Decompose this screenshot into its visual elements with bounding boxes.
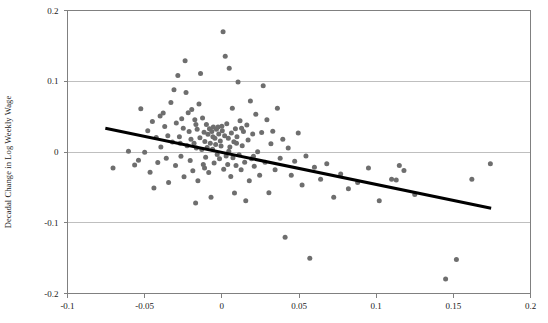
scatter-point bbox=[248, 99, 253, 104]
y-tick-label: 0 bbox=[54, 147, 59, 157]
scatter-point bbox=[227, 66, 232, 71]
scatter-point bbox=[307, 256, 312, 261]
scatter-point bbox=[209, 195, 214, 200]
scatter-point bbox=[168, 100, 173, 105]
scatter-point bbox=[196, 101, 201, 106]
plot-canvas: 0.20.10-0.1-0.2 -0.1-0.0500.050.10.150.2 bbox=[0, 0, 548, 323]
scatter-point bbox=[228, 174, 233, 179]
scatter-point bbox=[210, 134, 215, 139]
scatter-point bbox=[286, 146, 291, 151]
scatter-point bbox=[229, 130, 234, 135]
scatter-point bbox=[132, 163, 137, 168]
scatter-point bbox=[150, 119, 155, 124]
scatter-point bbox=[346, 186, 351, 191]
scatter-point bbox=[203, 155, 208, 160]
scatter-point bbox=[219, 143, 224, 148]
scatter-point bbox=[236, 79, 241, 84]
scatter-point bbox=[202, 165, 207, 170]
scatter-point bbox=[166, 180, 171, 185]
scatter-point bbox=[283, 235, 288, 240]
scatter-point bbox=[273, 167, 278, 172]
scatter-point bbox=[331, 195, 336, 200]
scatter-point bbox=[312, 165, 317, 170]
scatter-point bbox=[184, 90, 189, 95]
scatter-point bbox=[268, 141, 273, 146]
scatter-point bbox=[179, 116, 184, 121]
scatter-point bbox=[239, 167, 244, 172]
scatter-point bbox=[182, 174, 187, 179]
scatter-point bbox=[145, 128, 150, 133]
scatter-point bbox=[296, 130, 301, 135]
scatter-point bbox=[173, 163, 178, 168]
scatter-point bbox=[195, 127, 200, 132]
scatter-point bbox=[181, 126, 186, 131]
scatter-point bbox=[217, 156, 222, 161]
scatter-point bbox=[227, 145, 232, 150]
x-tick-label: -0.1 bbox=[60, 301, 74, 311]
scatter-point bbox=[250, 131, 255, 136]
scatter-point bbox=[193, 200, 198, 205]
x-tick-labels-group: -0.1-0.0500.050.10.150.2 bbox=[60, 301, 536, 311]
scatter-point bbox=[488, 161, 493, 166]
x-tick-label: 0 bbox=[220, 301, 225, 311]
scatter-point bbox=[200, 116, 205, 121]
scatter-point bbox=[300, 182, 305, 187]
scatter-point bbox=[212, 160, 217, 165]
scatter-point bbox=[257, 173, 262, 178]
scatter-point bbox=[292, 159, 297, 164]
scatter-point bbox=[318, 177, 323, 182]
scatter-point bbox=[264, 117, 269, 122]
y-tick-label: 0.1 bbox=[47, 76, 58, 86]
scatter-point bbox=[252, 164, 257, 169]
scatter-point bbox=[397, 163, 402, 168]
scatter-point bbox=[189, 107, 194, 112]
scatter-point bbox=[155, 160, 160, 165]
scatter-point bbox=[198, 71, 203, 76]
scatter-point bbox=[401, 168, 406, 173]
x-tick-label: 0.15 bbox=[445, 301, 461, 311]
x-tick-label: -0.05 bbox=[135, 301, 154, 311]
scatter-point bbox=[234, 134, 239, 139]
scatter-point bbox=[240, 143, 245, 148]
scatter-point bbox=[220, 128, 225, 133]
scatter-point bbox=[213, 142, 218, 147]
scatter-point bbox=[234, 163, 239, 168]
x-tick-label: 0.2 bbox=[525, 301, 536, 311]
scatter-point bbox=[161, 111, 166, 116]
scatter-point bbox=[443, 277, 448, 282]
scatter-points-group bbox=[111, 29, 493, 281]
x-tick-label: 0.1 bbox=[371, 301, 382, 311]
scatter-point bbox=[206, 170, 211, 175]
scatter-point bbox=[303, 153, 308, 158]
scatter-plot-figure: Decadal Change in Log Weekly Wage 0.20.1… bbox=[0, 0, 548, 323]
scatter-point bbox=[192, 117, 197, 122]
scatter-point bbox=[226, 136, 231, 141]
scatter-point bbox=[193, 122, 198, 127]
scatter-point bbox=[232, 191, 237, 196]
scatter-point bbox=[275, 106, 280, 111]
scatter-point bbox=[165, 133, 170, 138]
tick-marks-group bbox=[64, 11, 531, 298]
scatter-point bbox=[289, 173, 294, 178]
scatter-point bbox=[238, 118, 243, 123]
scatter-point bbox=[244, 123, 249, 128]
scatter-point bbox=[136, 158, 141, 163]
scatter-point bbox=[280, 137, 285, 142]
scatter-point bbox=[126, 149, 131, 154]
scatter-point bbox=[158, 145, 163, 150]
trend-line-group bbox=[105, 128, 491, 208]
scatter-point bbox=[218, 139, 223, 144]
scatter-point bbox=[195, 178, 200, 183]
scatter-point bbox=[366, 165, 371, 170]
y-axis-label-text: Decadal Change in Log Weekly Wage bbox=[3, 95, 13, 228]
x-tick-label: 0.05 bbox=[291, 301, 307, 311]
scatter-point bbox=[377, 198, 382, 203]
scatter-point bbox=[454, 257, 459, 262]
scatter-point bbox=[174, 120, 179, 125]
scatter-point bbox=[164, 156, 169, 161]
scatter-point bbox=[188, 158, 193, 163]
scatter-point bbox=[177, 134, 182, 139]
scatter-point bbox=[178, 154, 183, 159]
scatter-point bbox=[204, 122, 209, 127]
scatter-point bbox=[266, 190, 271, 195]
